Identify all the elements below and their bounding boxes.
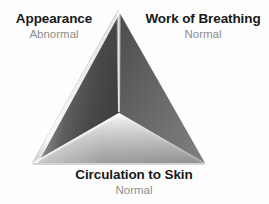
label-appearance-title: Appearance xyxy=(2,12,106,27)
label-circulation-to-skin: Circulation to Skin Normal xyxy=(48,168,220,196)
label-work-of-breathing-title: Work of Breathing xyxy=(139,12,267,27)
label-circulation-to-skin-value: Normal xyxy=(48,184,220,196)
label-circulation-to-skin-title: Circulation to Skin xyxy=(48,168,220,183)
label-appearance: Appearance Abnormal xyxy=(2,12,106,40)
label-work-of-breathing: Work of Breathing Normal xyxy=(139,12,267,40)
triangle-edge-bottom-shadow xyxy=(32,163,205,165)
pediatric-assessment-triangle-figure: Appearance Abnormal Work of Breathing No… xyxy=(0,0,269,204)
label-work-of-breathing-value: Normal xyxy=(139,28,267,40)
label-appearance-value: Abnormal xyxy=(2,28,106,40)
